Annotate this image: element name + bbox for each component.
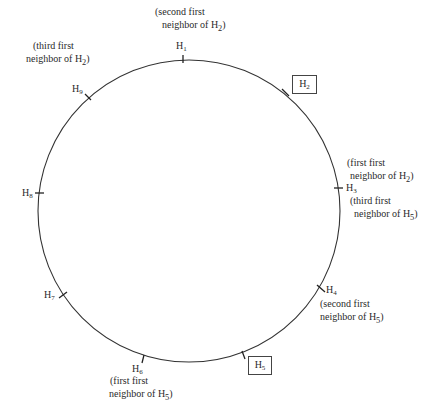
- annotation-h3-above-line2: neighbor of H2): [347, 170, 414, 187]
- annotation-h3-above-line1: (first first: [347, 157, 385, 168]
- annotation-h4-line2: neighbor of H5): [320, 311, 384, 328]
- site-box-h5: H5: [248, 356, 272, 375]
- ring-circle: [38, 60, 340, 362]
- annotation-h9-line2: neighbor of H2): [26, 53, 90, 70]
- annotation-h6: (first first neighbor of H5): [109, 375, 173, 404]
- annotation-h4: (second first neighbor of H5): [320, 298, 384, 327]
- annotation-h6-line2: neighbor of H5): [109, 388, 173, 405]
- site-label-h3: H3: [346, 182, 357, 194]
- site-label-h8: H8: [22, 187, 33, 199]
- annotation-h9-line1: (third first: [26, 40, 74, 51]
- annotation-h3-below-line2: neighbor of H5): [350, 208, 418, 225]
- site-label-h4: H4: [326, 284, 337, 296]
- tick-h7: [59, 292, 67, 298]
- tick-h6: [142, 355, 144, 363]
- annotation-h9: (third first neighbor of H2): [26, 40, 90, 69]
- annotation-h1: (second first neighbor of H2): [155, 6, 226, 35]
- annotation-h1-line2: neighbor of H2): [155, 19, 226, 36]
- annotation-h1-line1: (second first: [155, 6, 205, 17]
- annotation-h3-below-line1: (third first: [350, 195, 391, 206]
- annotation-h3-above: (first first neighbor of H2): [347, 157, 414, 186]
- site-box-h2: H2: [292, 75, 317, 94]
- site-label-h1: H1: [176, 40, 187, 52]
- site-label-h7: H7: [44, 289, 55, 301]
- site-label-h9: H9: [72, 83, 83, 95]
- site-label-h6: H6: [132, 363, 143, 375]
- annotation-h4-line1: (second first: [320, 298, 370, 309]
- annotation-h3-below: (third first neighbor of H5): [350, 195, 418, 224]
- annotation-h6-line1: (first first: [109, 375, 148, 386]
